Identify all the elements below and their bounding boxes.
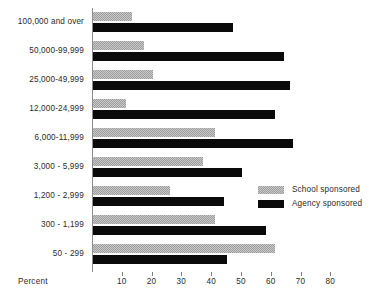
x-axis-tick-label: 60 (266, 277, 276, 286)
x-axis-tick-label: 20 (147, 277, 157, 286)
bar-school-sponsored (93, 128, 215, 137)
legend-item: School sponsored (258, 184, 378, 195)
legend-label: School sponsored (292, 185, 360, 194)
bar-agency-sponsored (93, 197, 224, 206)
x-axis-tick-label: 40 (206, 277, 216, 286)
category-label: 50 - 299 (0, 249, 84, 259)
x-axis-tick-label: 50 (236, 277, 246, 286)
x-axis-title: Percent (18, 277, 48, 286)
bar-school-sponsored (93, 41, 144, 50)
chart-legend: School sponsoredAgency sponsored (258, 184, 378, 212)
bar-school-sponsored (93, 99, 126, 108)
x-axis-tick-label: 70 (296, 277, 306, 286)
bar-agency-sponsored (93, 81, 290, 90)
bar-school-sponsored (93, 70, 153, 79)
category-label: 1,200 - 2,999 (0, 191, 84, 201)
category-label: 300 - 1,199 (0, 220, 84, 230)
x-axis-tick-label: 80 (326, 277, 336, 286)
bar-agency-sponsored (93, 110, 275, 119)
category-axis-labels: 100,000 and over50,000-99,99925,000-49,9… (0, 8, 88, 270)
x-axis-tick (122, 272, 123, 276)
bar-agency-sponsored (93, 255, 227, 264)
legend-swatch-icon (258, 200, 284, 208)
bar-chart: 100,000 and over50,000-99,99925,000-49,9… (0, 0, 378, 301)
category-label: 3,000 - 5,999 (0, 162, 84, 172)
x-axis-tick (181, 272, 182, 276)
bar-agency-sponsored (93, 139, 293, 148)
x-axis-tick (152, 272, 153, 276)
bar-agency-sponsored (93, 23, 233, 32)
x-axis-tick (330, 272, 331, 276)
legend-swatch-icon (258, 186, 284, 194)
bar-school-sponsored (93, 215, 215, 224)
category-label: 25,000-49,999 (0, 75, 84, 85)
bar-agency-sponsored (93, 168, 242, 177)
plot-area (92, 8, 375, 270)
bar-school-sponsored (93, 244, 275, 253)
x-axis-tick-label: 10 (117, 277, 127, 286)
bar-agency-sponsored (93, 52, 284, 61)
category-label: 50,000-99,999 (0, 46, 84, 56)
bar-school-sponsored (93, 186, 170, 195)
bar-agency-sponsored (93, 226, 266, 235)
legend-item: Agency sponsored (258, 198, 378, 209)
x-axis-tick (241, 272, 242, 276)
bar-school-sponsored (93, 12, 132, 21)
category-label: 12,000-24,999 (0, 104, 84, 114)
x-axis-tick (301, 272, 302, 276)
x-axis-tick-label: 30 (177, 277, 187, 286)
x-axis: 1020304050607080 (92, 272, 375, 294)
category-label: 100,000 and over (0, 17, 84, 27)
bar-school-sponsored (93, 157, 203, 166)
x-axis-tick (271, 272, 272, 276)
x-axis-tick (211, 272, 212, 276)
category-label: 6,000-11,999 (0, 133, 84, 143)
legend-label: Agency sponsored (292, 199, 362, 208)
